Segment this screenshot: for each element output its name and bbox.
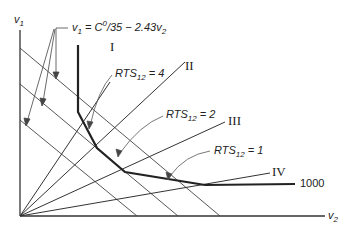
- rts-label-2: RTS12 = 2: [166, 109, 215, 123]
- isoquant-label: 1000: [300, 178, 324, 189]
- equation-arrows: [24, 28, 68, 126]
- ray-II: [20, 62, 185, 216]
- rts-arrows: [87, 75, 210, 180]
- ray-label-IV: IV: [272, 165, 286, 178]
- rts-label-1: RTS12 = 1: [214, 145, 263, 159]
- ray-IV: [20, 173, 270, 216]
- ray-label-II: II: [185, 59, 194, 72]
- ray-label-I: I: [110, 40, 114, 53]
- y-axis-label: v1: [14, 14, 24, 28]
- budget-equation: v1 = C0/35 − 2.43v2: [72, 20, 166, 36]
- x-axis-label: v2: [328, 210, 338, 224]
- rts-label-4: RTS12 = 4: [115, 68, 164, 82]
- ray-label-III: III: [228, 114, 241, 127]
